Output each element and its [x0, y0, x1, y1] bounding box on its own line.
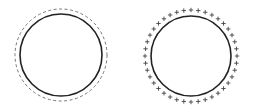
- plus-icon: [148, 33, 152, 37]
- diagram-canvas: [0, 0, 253, 110]
- plus-icon: [189, 100, 193, 104]
- plus-icon: [234, 47, 238, 51]
- plus-icon: [175, 10, 179, 14]
- plus-icon: [216, 17, 220, 21]
- plus-sign-ring: [143, 8, 239, 104]
- plus-icon: [175, 98, 179, 102]
- plus-icon: [145, 40, 149, 44]
- plus-icon: [148, 75, 152, 79]
- plus-icon: [156, 21, 160, 25]
- plus-icon: [233, 68, 237, 72]
- left-solid-circle: [20, 14, 102, 96]
- plus-icon: [203, 10, 207, 14]
- plus-icon: [182, 99, 186, 103]
- plus-icon: [216, 91, 220, 95]
- plus-icon: [162, 91, 166, 95]
- plus-icon: [162, 17, 166, 21]
- plus-icon: [152, 81, 156, 85]
- plus-icon: [230, 33, 234, 37]
- plus-icon: [221, 86, 225, 90]
- plus-icon: [226, 81, 230, 85]
- plus-icon: [210, 13, 214, 17]
- plus-icon: [196, 99, 200, 103]
- plus-icon: [189, 8, 193, 12]
- plus-icon: [182, 8, 186, 12]
- plus-icon: [168, 95, 172, 99]
- plus-icon: [226, 27, 230, 31]
- plus-icon: [156, 86, 160, 90]
- plus-icon: [203, 98, 207, 102]
- plus-icon: [143, 61, 147, 65]
- plus-icon: [143, 54, 147, 58]
- plus-icon: [143, 47, 147, 51]
- dashed-outer-ring: [15, 9, 107, 101]
- plus-icon: [152, 27, 156, 31]
- right-solid-circle: [151, 16, 231, 96]
- plus-icon: [210, 95, 214, 99]
- plus-icon: [230, 75, 234, 79]
- plus-icon: [234, 61, 238, 65]
- plus-icon: [196, 8, 200, 12]
- plus-icon: [221, 21, 225, 25]
- right-figure: [143, 8, 239, 104]
- plus-icon: [168, 13, 172, 17]
- plus-icon: [145, 68, 149, 72]
- plus-icon: [233, 40, 237, 44]
- plus-icon: [235, 54, 239, 58]
- left-figure: [15, 9, 107, 101]
